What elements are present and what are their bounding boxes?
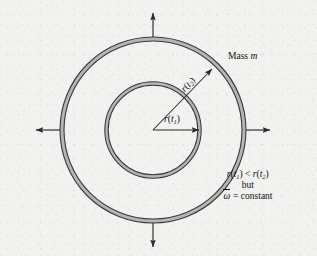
annotation-note: r(t1) < r(t2) but ω = constant — [223, 169, 273, 201]
mass-label-prefix: Mass — [228, 51, 250, 61]
note-line-inequality: r(t1) < r(t2) — [223, 169, 273, 180]
omega-bar-symbol: ω — [223, 191, 231, 201]
physics-diagram-figure: Mass m r(t2) r(t1) r(t1) < r(t2) but ω =… — [0, 0, 317, 256]
radius-inner-label: r(t1) — [164, 114, 180, 125]
note-line-omega: ω = constant — [223, 191, 273, 202]
note-close-2: ) — [266, 169, 269, 179]
radius-inner-close: ) — [177, 114, 180, 124]
note-line-but: but — [223, 180, 273, 191]
note-relation: < — [243, 169, 253, 179]
note-value: constant — [241, 191, 273, 201]
mass-label: Mass m — [228, 51, 257, 62]
diagram-canvas — [0, 0, 317, 256]
mass-label-symbol: m — [250, 51, 257, 61]
note-equals: = — [231, 191, 241, 201]
arrow-radius-outer — [153, 69, 212, 130]
